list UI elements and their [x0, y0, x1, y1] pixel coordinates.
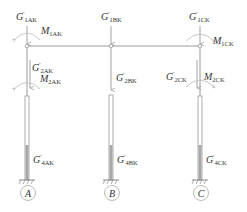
joint-b [109, 44, 112, 47]
column-b-base-segment [110, 145, 113, 180]
label-g2ck: G'2CK [166, 70, 187, 83]
hatch-a [19, 180, 33, 184]
label-m1ck: M1CK [212, 35, 234, 47]
label-m2ak: M2AK [39, 73, 61, 85]
hatch-b [103, 180, 117, 184]
column-a: A G'1AK M1AK G'2AK M2AK G'4AK [14, 10, 62, 201]
label-m1ak: M1AK [40, 25, 62, 37]
label-g1ck: G'1CK [189, 10, 210, 23]
column-c-base-segment [199, 145, 202, 180]
frame-diagram: A G'1AK M1AK G'2AK M2AK G'4AK B G' [0, 0, 247, 212]
axis-label-b: B [109, 188, 115, 199]
column-c: C G'1CK M1CK G'2CK M2CK G'4CK [166, 10, 234, 201]
label-g4bk: G'4BK [117, 153, 138, 166]
label-g2bk: G'2BK [116, 71, 137, 84]
label-g1bk: G'1BK [101, 10, 122, 23]
axis-label-a: A [24, 188, 32, 199]
label-g4ck: G'4CK [206, 153, 227, 166]
label-m2ck: M2CK [203, 71, 225, 83]
label-g1ak: G'1AK [16, 10, 37, 23]
hatch-c [192, 180, 206, 184]
joint-c [198, 44, 201, 47]
axis-label-c: C [198, 188, 205, 199]
column-b: B G'1BK G'2BK G'4BK [101, 10, 138, 201]
joint-a [25, 44, 28, 47]
label-g4ak: G'4AK [33, 153, 54, 166]
column-a-base-segment [26, 145, 29, 180]
